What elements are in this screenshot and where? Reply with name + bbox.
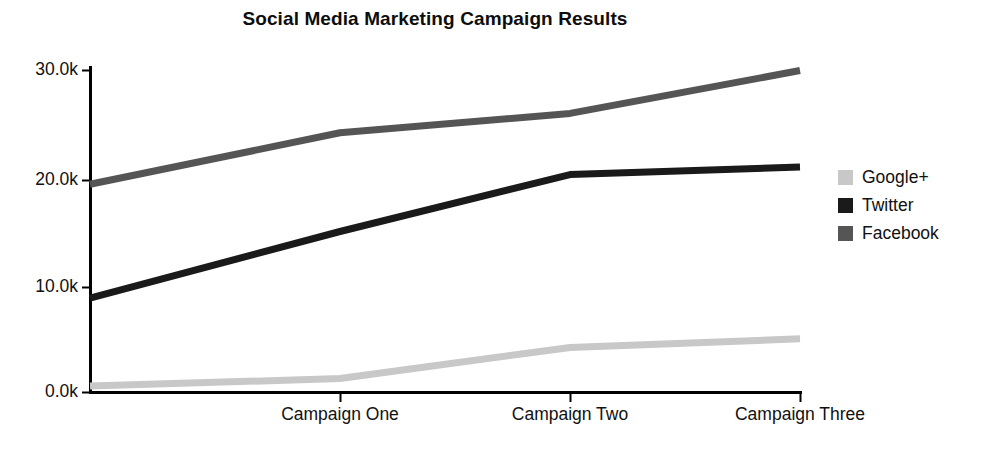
series-line-twitter bbox=[90, 167, 800, 298]
legend-swatch-icon-google-plus bbox=[838, 170, 853, 185]
legend-item-facebook[interactable]: Facebook bbox=[838, 219, 939, 247]
legend-item-google-plus[interactable]: Google+ bbox=[838, 163, 939, 191]
y-axis-ticks bbox=[82, 71, 90, 393]
legend-swatch-icon-facebook bbox=[838, 226, 853, 241]
chart-container: Social Media Marketing Campaign Results … bbox=[0, 0, 997, 456]
legend-label-twitter: Twitter bbox=[862, 195, 914, 216]
legend: Google+ Twitter Facebook bbox=[838, 163, 939, 247]
series-line-google-plus bbox=[90, 339, 800, 386]
legend-label-facebook: Facebook bbox=[862, 223, 939, 244]
legend-item-twitter[interactable]: Twitter bbox=[838, 191, 939, 219]
legend-swatch-icon-twitter bbox=[838, 198, 853, 213]
legend-label-google-plus: Google+ bbox=[862, 167, 929, 188]
data-series-group bbox=[90, 71, 800, 387]
